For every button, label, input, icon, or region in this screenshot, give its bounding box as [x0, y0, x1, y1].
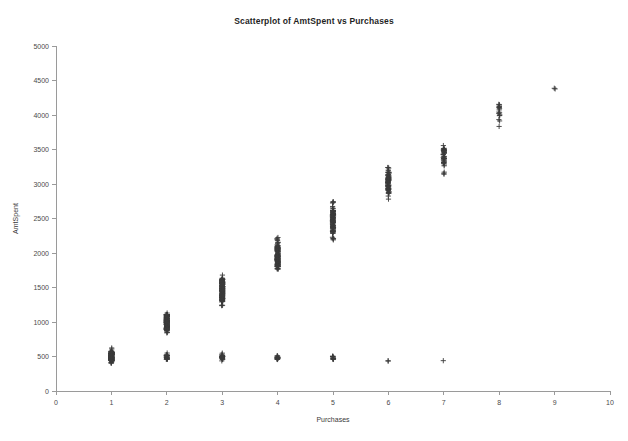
y-tick-label: 1000 — [33, 319, 49, 326]
x-tick-label: 1 — [109, 399, 113, 406]
x-tick-label: 2 — [165, 399, 169, 406]
data-point — [331, 200, 336, 205]
y-tick-label: 4000 — [33, 112, 49, 119]
y-axis-title: AmtSpent — [12, 203, 20, 234]
data-point — [330, 200, 335, 205]
y-tick-label: 5000 — [33, 43, 49, 50]
x-tick-label: 10 — [606, 399, 614, 406]
data-point — [441, 358, 446, 363]
x-tick-label: 5 — [331, 399, 335, 406]
x-axis-title: Purchases — [316, 416, 350, 423]
data-point — [219, 303, 224, 308]
y-tick-label: 2500 — [33, 215, 49, 222]
x-tick-label: 6 — [386, 399, 390, 406]
y-tick-label: 2000 — [33, 250, 49, 257]
y-tick-label: 1500 — [33, 284, 49, 291]
x-tick-label: 8 — [497, 399, 501, 406]
y-tick-label: 0 — [45, 388, 49, 395]
y-tick-label: 3000 — [33, 181, 49, 188]
data-point — [497, 118, 502, 123]
data-point — [553, 86, 558, 91]
data-point — [386, 358, 391, 363]
x-tick-label: 3 — [220, 399, 224, 406]
x-tick-label: 0 — [54, 399, 58, 406]
data-point — [497, 124, 502, 129]
x-tick-label: 7 — [442, 399, 446, 406]
data-point — [552, 86, 557, 91]
plot-canvas: 0500100015002000250030003500400045005000… — [0, 0, 628, 441]
x-tick-label: 9 — [553, 399, 557, 406]
scatterplot-chart: Scatterplot of AmtSpent vs Purchases 050… — [0, 0, 628, 441]
data-point — [496, 117, 501, 122]
y-tick-label: 4500 — [33, 77, 49, 84]
y-tick-label: 500 — [37, 353, 49, 360]
y-tick-label: 3500 — [33, 146, 49, 153]
data-point — [386, 197, 391, 202]
x-tick-label: 4 — [276, 399, 280, 406]
